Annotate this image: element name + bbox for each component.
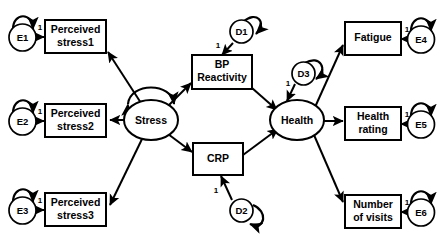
node-e5[interactable]: E5 — [408, 111, 435, 138]
path-stress-to-crp — [168, 134, 192, 152]
crp-label: CRP — [207, 152, 229, 164]
path-stress-to-bp-reactivity — [168, 83, 191, 106]
e1-label: E1 — [17, 32, 29, 43]
path-health-to-number-of-visits — [311, 128, 343, 202]
node-number-of-visits[interactable]: Number of visits — [345, 195, 401, 228]
node-perceived-stress1[interactable]: Perceived stress1 — [45, 20, 106, 53]
coef-d1-to-bp-reactivity: 1 — [216, 41, 221, 50]
e4-label: E4 — [415, 34, 427, 45]
d1-label: D1 — [235, 26, 248, 37]
node-perceived-stress3[interactable]: Perceived stress3 — [45, 193, 106, 226]
perceived-stress1-label-line1: Perceived — [51, 23, 101, 35]
coef-e2-to-stress2: 1 — [38, 107, 43, 116]
coef-e5-to-health-rating: 1 — [405, 110, 410, 119]
node-bp-reactivity[interactable]: BP Reactivity — [192, 55, 252, 89]
perceived-stress3-label-line2: stress3 — [57, 209, 94, 221]
coef-e4-to-fatigue: 1 — [405, 25, 410, 34]
path-crp-to-health — [243, 129, 278, 155]
node-e2[interactable]: E2 — [9, 108, 36, 135]
coef-d3-to-health: 1 — [286, 79, 291, 88]
coef-d2-to-crp: 1 — [214, 186, 219, 195]
number-of-visits-label-line2: of visits — [353, 211, 393, 223]
node-e4[interactable]: E4 — [408, 26, 435, 53]
health-label: Health — [281, 114, 313, 126]
path-d1-to-bp-reactivity — [222, 43, 233, 55]
e2-label: E2 — [17, 116, 29, 127]
node-health-rating[interactable]: Health rating — [345, 107, 401, 140]
e3-label: E3 — [17, 205, 29, 216]
coef-e1-to-stress1: 1 — [38, 23, 43, 32]
path-stress-to-stress3 — [110, 137, 143, 205]
perceived-stress3-label-line1: Perceived — [51, 196, 101, 208]
coef-e3-to-stress3: 1 — [38, 196, 43, 205]
node-crp[interactable]: CRP — [193, 143, 243, 175]
node-health[interactable]: Health — [270, 100, 324, 140]
path-d2-to-crp — [221, 176, 232, 200]
fatigue-label: Fatigue — [354, 31, 391, 43]
stress-label: Stress — [135, 114, 167, 126]
path-bp-reactivity-to-health — [252, 88, 277, 110]
sem-path-diagram: Perceived stress1 Perceived stress2 Perc… — [0, 0, 443, 244]
d3-label: D3 — [297, 68, 309, 79]
node-d3[interactable]: D3 — [292, 62, 315, 85]
node-e1[interactable]: E1 — [9, 24, 36, 51]
diagram-canvas: Perceived stress1 Perceived stress2 Perc… — [0, 0, 443, 244]
node-d1[interactable]: D1 — [230, 20, 253, 43]
e6-label: E6 — [415, 207, 427, 218]
bp-reactivity-label-line2: Reactivity — [197, 71, 247, 83]
coef-e6-to-visits: 1 — [405, 198, 410, 207]
node-d2[interactable]: D2 — [230, 199, 253, 222]
d2-label: D2 — [235, 205, 247, 216]
node-fatigue[interactable]: Fatigue — [345, 22, 401, 55]
bp-reactivity-label-line1: BP — [215, 58, 230, 70]
health-rating-label-line2: rating — [358, 123, 387, 135]
node-stress[interactable]: Stress — [124, 100, 178, 140]
number-of-visits-label-line1: Number — [353, 198, 393, 210]
perceived-stress2-label-line1: Perceived — [51, 107, 101, 119]
node-e6[interactable]: E6 — [408, 199, 435, 226]
node-e3[interactable]: E3 — [9, 197, 36, 224]
node-perceived-stress2[interactable]: Perceived stress2 — [45, 104, 106, 137]
path-stress-to-stress1 — [108, 52, 141, 103]
health-rating-label-line1: Health — [357, 110, 389, 122]
e5-label: E5 — [415, 119, 427, 130]
perceived-stress1-label-line2: stress1 — [57, 36, 94, 48]
perceived-stress2-label-line2: stress2 — [57, 120, 94, 132]
